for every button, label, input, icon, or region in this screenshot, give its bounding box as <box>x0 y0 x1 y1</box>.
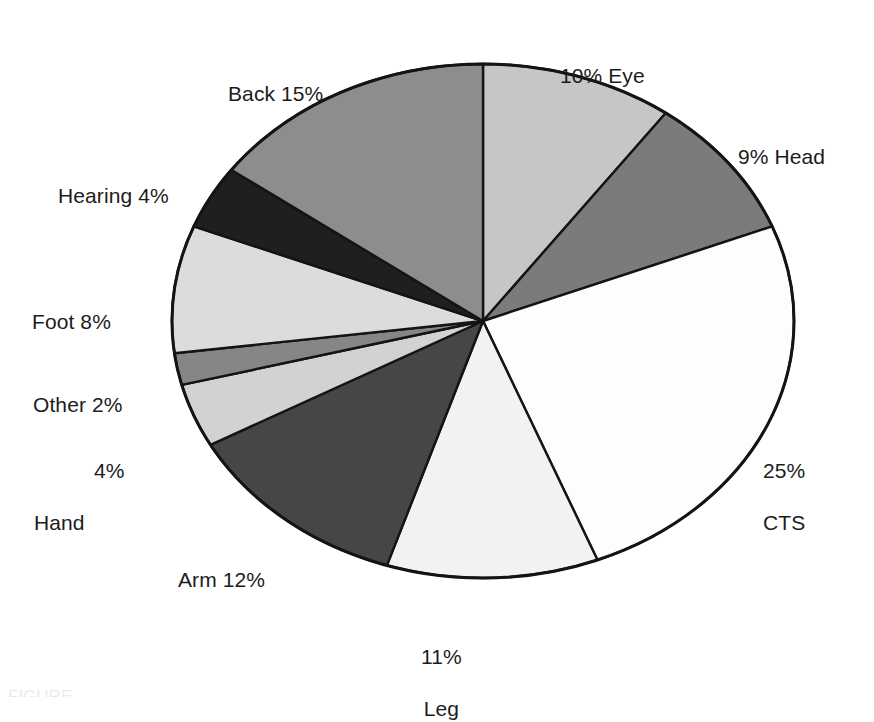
pie-label-hand-name: Hand <box>34 511 85 534</box>
figure-caption-fragment: FIGURE <box>8 687 338 697</box>
pie-label-back: Back 15% <box>228 55 323 107</box>
pie-label-foot: Foot 8% <box>32 283 111 335</box>
pie-label-eye: 10% Eye <box>560 37 645 89</box>
pie-label-cts: 25% CTS <box>763 432 805 536</box>
pie-label-leg: 11% Leg <box>421 618 462 722</box>
pie-label-arm: Arm 12% <box>178 541 265 593</box>
pie-label-leg-name: Leg <box>424 697 459 720</box>
pie-label-foot-text: Foot 8% <box>32 310 111 333</box>
pie-label-leg-percent: 11% <box>421 644 462 670</box>
pie-label-head: 9% Head <box>738 118 825 170</box>
pie-label-hearing: Hearing 4% <box>58 157 169 209</box>
pie-label-hand-percent: 4% <box>94 458 125 484</box>
pie-label-other: Other 2% <box>33 366 123 418</box>
pie-label-cts-name: CTS <box>763 511 805 534</box>
pie-label-hand: 4% Hand <box>34 432 125 536</box>
pie-label-cts-percent: 25% <box>763 458 805 484</box>
pie-label-back-text: Back 15% <box>228 82 323 105</box>
pie-label-hearing-text: Hearing 4% <box>58 184 169 207</box>
pie-label-other-text: Other 2% <box>33 393 123 416</box>
pie-label-eye-text: 10% Eye <box>560 64 645 87</box>
pie-label-head-text: 9% Head <box>738 145 825 168</box>
pie-label-arm-text: Arm 12% <box>178 568 265 591</box>
pie-slice-group <box>172 64 794 578</box>
